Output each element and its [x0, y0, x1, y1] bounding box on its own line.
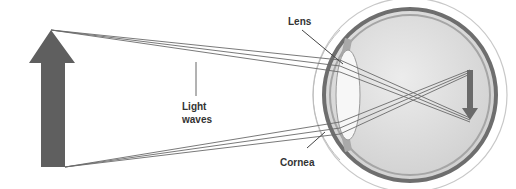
light-waves-label-line1: Light — [182, 101, 206, 113]
object-arrow — [29, 30, 75, 167]
eye-diagram: Lens Light waves Cornea — [0, 0, 516, 189]
cornea-label: Cornea — [280, 157, 314, 169]
diagram-graphics — [0, 0, 516, 189]
lens-label: Lens — [288, 16, 311, 28]
light-waves-label-line2: waves — [182, 114, 212, 126]
